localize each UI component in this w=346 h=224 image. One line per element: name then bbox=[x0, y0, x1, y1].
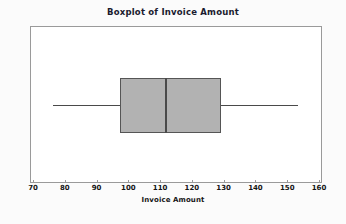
x-tick-label: 110 bbox=[153, 184, 168, 192]
box-iqr bbox=[120, 78, 222, 133]
plot-frame bbox=[30, 26, 322, 183]
x-tick-mark bbox=[33, 180, 34, 183]
x-tick-mark bbox=[255, 180, 256, 183]
x-tick-label: 130 bbox=[216, 184, 231, 192]
x-tick-label: 150 bbox=[280, 184, 295, 192]
x-tick-mark bbox=[287, 180, 288, 183]
x-tick-label: 70 bbox=[28, 184, 38, 192]
median-line bbox=[165, 78, 166, 133]
x-axis-ticks: 708090100110120130140150160 bbox=[0, 184, 346, 196]
x-tick-label: 160 bbox=[312, 184, 327, 192]
x-tick-label: 80 bbox=[60, 184, 70, 192]
x-tick-mark bbox=[319, 180, 320, 183]
x-tick-mark bbox=[97, 180, 98, 183]
whisker-upper bbox=[221, 105, 297, 106]
whisker-lower bbox=[53, 105, 120, 106]
x-tick-mark bbox=[160, 180, 161, 183]
x-tick-label: 90 bbox=[92, 184, 102, 192]
chart-title: Boxplot of Invoice Amount bbox=[0, 7, 346, 17]
boxplot-figure: Boxplot of Invoice Amount 70809010011012… bbox=[0, 0, 346, 224]
x-tick-mark bbox=[192, 180, 193, 183]
x-tick-label: 140 bbox=[248, 184, 263, 192]
x-tick-label: 100 bbox=[121, 184, 136, 192]
plot-area bbox=[31, 27, 321, 182]
x-tick-mark bbox=[224, 180, 225, 183]
x-tick-mark bbox=[65, 180, 66, 183]
x-axis-label: Invoice Amount bbox=[0, 196, 346, 204]
x-tick-mark bbox=[128, 180, 129, 183]
x-tick-label: 120 bbox=[185, 184, 200, 192]
